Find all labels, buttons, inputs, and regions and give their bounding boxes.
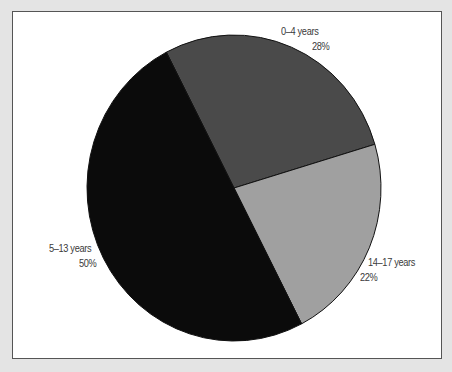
label-0-4-years-pct: 28% bbox=[312, 39, 329, 54]
label-0-4-years-percent: 28% bbox=[312, 40, 329, 52]
label-14-17-years-pct: 22% bbox=[360, 270, 377, 285]
pie-slices bbox=[87, 35, 381, 341]
label-5-13-years-name: 5–13 years bbox=[49, 242, 91, 254]
label-14-17-years-percent: 22% bbox=[360, 271, 377, 283]
label-5-13-years: 5–13 years bbox=[49, 241, 91, 256]
label-5-13-years-pct: 50% bbox=[79, 256, 96, 271]
label-14-17-years: 14–17 years bbox=[368, 255, 415, 270]
label-0-4-years-name: 0–4 years bbox=[281, 25, 318, 37]
label-5-13-years-percent: 50% bbox=[79, 257, 96, 269]
label-14-17-years-name: 14–17 years bbox=[368, 256, 415, 268]
pie-chart bbox=[0, 0, 452, 372]
label-0-4-years: 0–4 years bbox=[281, 24, 318, 39]
